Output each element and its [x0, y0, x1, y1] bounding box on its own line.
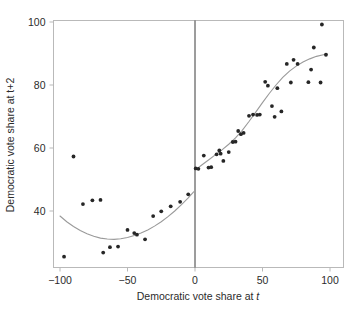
data-point [285, 62, 289, 66]
data-point [221, 159, 225, 163]
axes-frame [54, 21, 344, 268]
data-point [135, 233, 139, 237]
data-point [324, 53, 328, 57]
y-axis-title: Democratic vote share at t+2 [4, 78, 16, 213]
y-tick-label: 100 [28, 16, 46, 28]
data-point [319, 81, 323, 85]
data-point [202, 154, 206, 158]
data-point [234, 140, 238, 144]
data-point [108, 245, 112, 249]
x-axis-tick-marks [60, 268, 330, 272]
data-point [307, 80, 311, 84]
y-tick-label: 60 [34, 142, 46, 154]
fit-curve-left [60, 192, 194, 240]
data-point [236, 129, 240, 133]
plot-frame [54, 21, 344, 268]
data-point [273, 115, 277, 119]
x-axis-title: Democratic vote share at t [137, 290, 261, 302]
data-point [227, 150, 231, 154]
fit-curves [60, 54, 327, 239]
data-point [275, 86, 279, 90]
data-point [219, 152, 223, 156]
data-point [215, 152, 219, 156]
data-point [280, 110, 284, 114]
data-point [263, 80, 267, 84]
data-point [309, 68, 313, 72]
data-point [320, 23, 324, 27]
data-point [296, 62, 300, 66]
data-point [81, 202, 85, 206]
data-point [251, 113, 255, 117]
x-axis-title-variable: t [256, 290, 260, 302]
data-point [247, 114, 251, 118]
data-point [289, 81, 293, 85]
x-axis-tick-labels: −100−50050100 [48, 274, 339, 286]
data-point [178, 200, 182, 204]
plot-canvas: −100−50050100 406080100 Democratic vote … [0, 0, 359, 313]
data-point [151, 214, 155, 218]
data-point [126, 228, 130, 232]
data-point [242, 131, 246, 135]
y-tick-label: 80 [34, 79, 46, 91]
y-axis-tick-labels: 406080100 [28, 16, 46, 217]
data-point [91, 198, 95, 202]
y-tick-label: 40 [34, 205, 46, 217]
fit-curve-right [196, 54, 327, 169]
data-point [186, 192, 190, 196]
data-point [99, 198, 103, 202]
data-point [72, 155, 76, 159]
x-tick-label: −50 [119, 274, 137, 286]
data-point [196, 167, 200, 171]
data-point [266, 84, 270, 88]
data-point [209, 165, 213, 169]
data-point [116, 245, 120, 249]
x-tick-label: 100 [321, 274, 339, 286]
data-point [159, 209, 163, 213]
y-axis-tick-marks [50, 22, 54, 211]
data-point [312, 46, 316, 50]
x-axis-title-text: Democratic vote share at [137, 290, 257, 302]
x-tick-label: −100 [48, 274, 72, 286]
data-point [169, 204, 173, 208]
scatter-plot-figure: −100−50050100 406080100 Democratic vote … [0, 0, 359, 313]
x-tick-label: 50 [257, 274, 269, 286]
x-tick-label: 0 [192, 274, 198, 286]
data-point [292, 58, 296, 62]
data-point [258, 113, 262, 117]
data-point [270, 104, 274, 108]
data-point [62, 255, 66, 259]
data-point [101, 251, 105, 255]
data-point [143, 237, 147, 241]
